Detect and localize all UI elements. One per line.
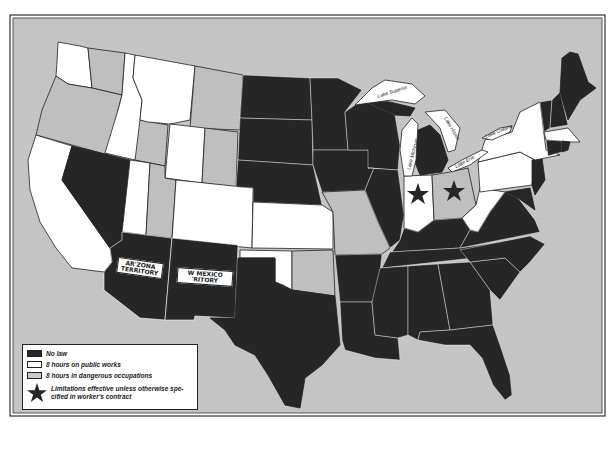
state-washington-east	[88, 48, 125, 95]
legend-label: 8 hours in dangerous occupations	[46, 372, 152, 380]
state-south-dakota	[238, 118, 313, 165]
legend-item-dangerous: 8 hours in dangerous occupations	[27, 370, 193, 381]
no-law-swatch	[27, 350, 42, 357]
legend-label: Limitations effective unless otherwise s…	[51, 385, 191, 401]
dangerous-occupations-swatch	[27, 372, 42, 379]
state-oklahoma-east	[292, 250, 335, 296]
legend-item-no-law: No law	[27, 348, 193, 359]
state-kansas	[252, 202, 333, 249]
state-north-dakota	[240, 75, 312, 120]
public-works-swatch	[27, 361, 42, 368]
legend-label: No law	[46, 350, 67, 358]
legend-label: 8 hours on public works	[46, 361, 121, 369]
map-legend: No law 8 hours on public works 8 hours i…	[22, 344, 198, 410]
state-iowa	[313, 150, 374, 192]
legend-item-star: Limitations effective unless otherwise s…	[27, 381, 193, 405]
state-wyoming-east	[202, 128, 238, 187]
state-idaho-south	[135, 120, 168, 166]
state-colorado	[172, 180, 253, 248]
state-montana-east	[190, 66, 243, 130]
star-icon	[27, 383, 47, 403]
state-montana-west	[133, 55, 195, 124]
state-wyoming-west	[165, 124, 205, 183]
legend-item-public-works: 8 hours on public works	[27, 359, 193, 370]
